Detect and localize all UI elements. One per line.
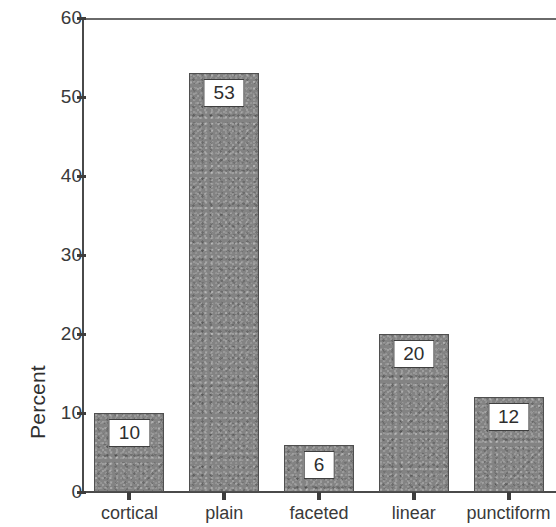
bar-value-label: 12 <box>488 403 529 431</box>
y-tick-label: 40 <box>40 165 82 187</box>
y-tick-label: 30 <box>40 244 82 266</box>
x-tick-mark <box>317 492 321 500</box>
bar-group: 20 <box>379 18 449 492</box>
bar-value-label: 20 <box>393 340 434 368</box>
x-tick-mark <box>222 492 226 500</box>
y-tick-label: 50 <box>40 86 82 108</box>
bar-value-label: 6 <box>304 451 335 479</box>
y-tick-label: 20 <box>40 323 82 345</box>
bar-group: 10 <box>94 18 164 492</box>
bar-group: 12 <box>474 18 544 492</box>
x-tick-label: faceted <box>289 503 348 524</box>
plot-area: 105362012 <box>82 18 556 492</box>
y-tick-label: 60 <box>40 7 82 29</box>
y-tick-label: 10 <box>40 402 82 424</box>
x-tick-label: cortical <box>101 503 158 524</box>
x-tick-label: plain <box>205 503 243 524</box>
x-tick-label: linear <box>392 503 436 524</box>
x-tick-mark <box>412 492 416 500</box>
bar-group: 53 <box>189 18 259 492</box>
y-tick-label: 0 <box>40 481 82 503</box>
bar-group: 6 <box>284 18 354 492</box>
x-tick-mark <box>127 492 131 500</box>
x-tick-label: punctiform <box>467 503 551 524</box>
bar-chart: Percent 0102030405060 105362012 cortical… <box>0 0 556 527</box>
x-tick-mark <box>507 492 511 500</box>
bar-value-label: 10 <box>109 419 150 447</box>
bar-value-label: 53 <box>204 79 245 107</box>
bar[interactable] <box>189 73 259 492</box>
